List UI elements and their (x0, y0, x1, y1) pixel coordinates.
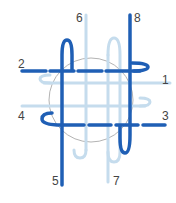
label-3: 3 (162, 110, 169, 122)
label-8: 8 (134, 12, 141, 24)
label-4: 4 (18, 110, 25, 122)
label-7: 7 (113, 175, 120, 187)
light-strands (22, 15, 170, 182)
label-5: 5 (52, 175, 59, 187)
label-2: 2 (18, 58, 25, 70)
label-6: 6 (76, 12, 83, 24)
label-1: 1 (162, 74, 169, 86)
knot-diagram (0, 0, 176, 203)
